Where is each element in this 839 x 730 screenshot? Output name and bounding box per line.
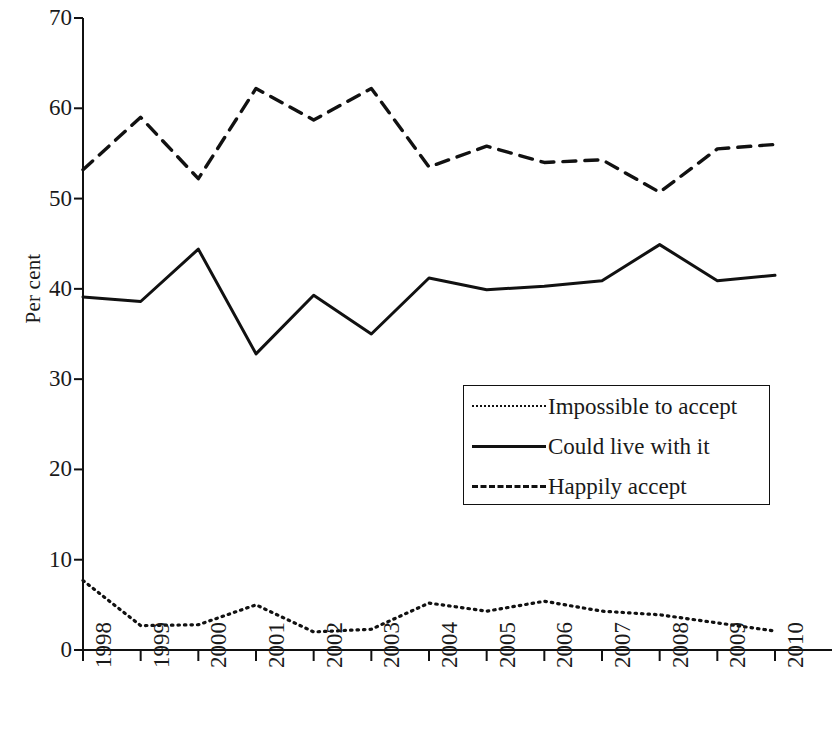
legend-item-could-live-with-it: Could live with it [464,426,769,466]
x-axis-tick-label: 2005 [496,622,519,668]
x-axis-tick-label: 2001 [265,622,288,668]
series-line-happily-accept [83,88,775,192]
solid-line-key [472,439,548,453]
dashed-line-key [472,479,548,493]
chart-legend: Impossible to accept Could live with it … [463,385,770,505]
legend-item-impossible-to-accept: Impossible to accept [464,386,769,426]
chart-container: Per cent 010203040506070 199819992000200… [0,0,839,730]
legend-label: Happily accept [548,475,687,498]
x-axis-tick-label: 2000 [207,622,230,668]
legend-label: Impossible to accept [548,395,737,418]
series-line-could-live-with-it [83,245,775,354]
x-axis-tick-label: 2010 [784,622,807,668]
x-axis-tick-label: 2007 [611,622,634,668]
dotted-line-key [472,399,548,413]
x-axis-tick-label: 1999 [150,622,173,668]
x-axis-tick-label: 2004 [438,622,461,668]
x-axis-tick-label: 1998 [92,622,115,668]
legend-item-happily-accept: Happily accept [464,466,769,506]
legend-label: Could live with it [548,435,710,458]
chart-plot-area [0,0,839,730]
x-axis-tick-label: 2009 [726,622,749,668]
x-axis-tick-label: 2003 [380,622,403,668]
x-axis-tick-label: 2008 [669,622,692,668]
x-axis-tick-label: 2006 [553,622,576,668]
x-axis-tick-label: 2002 [323,622,346,668]
